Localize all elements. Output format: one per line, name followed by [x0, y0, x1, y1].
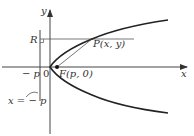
focus-label: F(p, 0)	[58, 68, 93, 79]
focal-segment	[57, 39, 92, 67]
r-label: R	[29, 34, 38, 45]
x-axis-label: x	[181, 68, 187, 79]
parabola-diagram: y x R P(x, y) − p 0 F(p, 0) x = − p	[0, 0, 194, 136]
right-angle-marker	[40, 39, 44, 43]
y-axis-label: y	[40, 5, 47, 16]
origin-label: 0	[43, 68, 49, 79]
p-label: P(x, y)	[92, 38, 125, 49]
neg-p-label: − p	[22, 68, 41, 79]
directrix-label: x = − p	[8, 95, 47, 106]
